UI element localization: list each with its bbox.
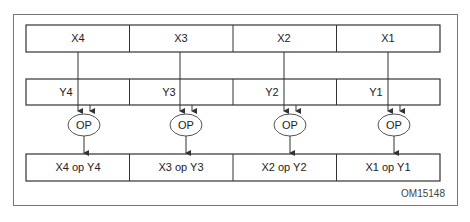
op-label: OP: [178, 119, 194, 131]
result-element: X4 op Y4: [55, 161, 100, 173]
result-register: X4 op Y4 X3 op Y3 X2 op Y2 X1 op Y1: [26, 154, 440, 181]
op-label: OP: [76, 119, 92, 131]
result-element: X2 op Y2: [261, 161, 306, 173]
y-element: Y1: [369, 86, 382, 98]
y-register: Y4 Y3 Y2 Y1: [26, 79, 440, 105]
figure-id: OM15148: [401, 188, 445, 199]
result-element: X3 op Y3: [158, 161, 203, 173]
result-element: X1 op Y1: [365, 161, 410, 173]
lane-4: [68, 52, 100, 153]
x-element: X4: [71, 32, 84, 44]
y-element: Y4: [59, 86, 72, 98]
x-element: X2: [277, 32, 290, 44]
x-element: X1: [381, 32, 394, 44]
lane-1: [378, 52, 410, 153]
lane-2: [274, 52, 306, 153]
x-register: X4 X3 X2 X1: [26, 25, 440, 52]
simd-operation-diagram: X4 X3 X2 X1 Y4 Y3 Y2 Y1 OP: [0, 0, 470, 222]
x-element: X3: [174, 32, 187, 44]
y-element: Y3: [162, 86, 175, 98]
lane-3: [170, 52, 202, 153]
y-element: Y2: [265, 86, 278, 98]
op-label: OP: [386, 119, 402, 131]
op-label: OP: [282, 119, 298, 131]
